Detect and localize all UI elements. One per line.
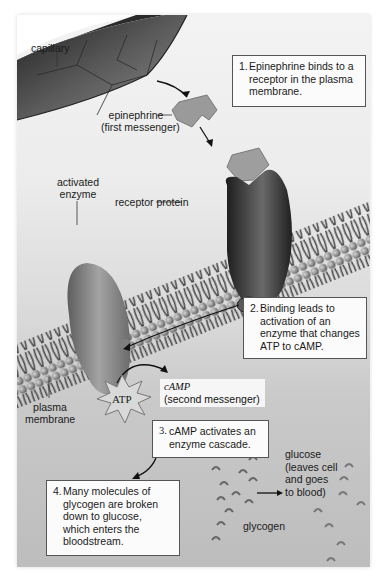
label-activated-enzyme-line1: activated [57, 176, 99, 188]
step-1-box: 1. Epinephrine binds to a receptor in th… [232, 55, 366, 107]
label-epinephrine-line2: (first messenger) [101, 121, 180, 133]
step-1-text: Epinephrine binds to a receptor in the p… [239, 60, 359, 98]
label-plasma-membrane: plasma membrane [25, 401, 75, 425]
step-1-number: 1. [239, 60, 248, 73]
label-glucose-line3: and goes [285, 473, 328, 485]
label-epinephrine: epinephrine (first messenger) [101, 109, 171, 133]
label-activated-enzyme: activated enzyme [55, 176, 101, 200]
step-3-text: cAMP activates an enzyme cascade. [159, 425, 262, 450]
label-activated-enzyme-line2: enzyme [60, 188, 97, 200]
epinephrine-signaling-figure: capillary epinephrine (first messenger) … [17, 15, 370, 567]
label-camp-second-messenger: cAMP (second messenger) [160, 379, 265, 407]
step-4-text: Many molecules of glycogen are broken do… [53, 485, 173, 548]
step-3-number: 3. [159, 425, 167, 438]
label-glucose-line4: to blood) [285, 486, 326, 498]
label-atp: ATP [112, 393, 132, 405]
label-camp: cAMP [164, 381, 260, 393]
label-epinephrine-line1: epinephrine [109, 109, 164, 121]
label-receptor-protein: receptor protein [115, 196, 189, 208]
step-4-number: 4. [53, 485, 62, 498]
label-glycogen: glycogen [243, 520, 285, 532]
label-capillary: capillary [31, 42, 70, 54]
label-plasma-membrane-line1: plasma [33, 401, 67, 413]
label-glucose-line2: (leaves cell [285, 461, 338, 473]
label-glucose-line1: glucose [285, 448, 321, 460]
label-glucose: glucose (leaves cell and goes to blood) [285, 448, 338, 498]
step-2-number: 2. [250, 302, 259, 315]
capillary-vessel [17, 15, 187, 120]
step-4-box: 4. Many molecules of glycogen are broken… [46, 480, 180, 556]
step-2-box: 2. Binding leads to activation of an enz… [243, 297, 367, 359]
label-second-messenger: (second messenger) [164, 393, 260, 405]
step-2-text: Binding leads to activation of an enzyme… [250, 302, 360, 352]
label-plasma-membrane-line2: membrane [25, 413, 75, 425]
step-3-box: 3. cAMP activates an enzyme cascade. [152, 420, 269, 458]
